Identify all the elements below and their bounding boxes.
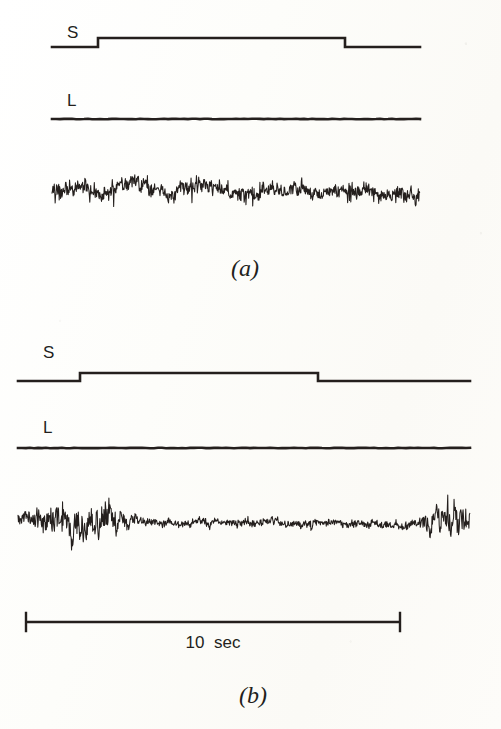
- time-scale-bar-label: 10 sec: [143, 634, 283, 651]
- panel-a-channel-label-s: S: [67, 24, 79, 41]
- panel-b-channel-label-l: L: [43, 419, 53, 436]
- panel-a-channel-label-l: L: [67, 92, 77, 109]
- figure-root: S L (a) S L 10 sec (b): [0, 0, 501, 729]
- panel-a-caption: (a): [205, 256, 285, 280]
- panel-b-channel-label-s: S: [43, 344, 55, 361]
- panel-b-caption: (b): [213, 683, 293, 707]
